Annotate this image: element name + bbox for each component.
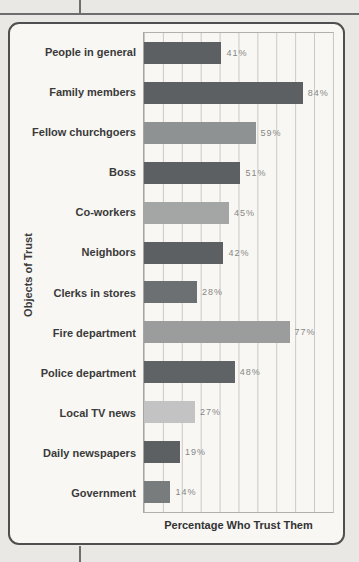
category-row: Local TV news (46, 393, 136, 433)
bar (144, 361, 235, 383)
bar-value-label: 77% (295, 327, 316, 337)
category-label: Co-workers (75, 206, 136, 218)
chart-row: 48% (144, 352, 333, 392)
page-rule-vertical-bottom (79, 546, 81, 562)
y-axis-label: Objects of Trust (22, 215, 34, 335)
category-row: Co-workers (46, 192, 136, 232)
category-label: Clerks in stores (53, 287, 136, 299)
category-row: People in general (46, 32, 136, 72)
bar-value-label: 51% (245, 168, 266, 178)
plot-area: 41%84%59%51%45%42%28%77%48%27%19%14% (143, 32, 334, 513)
bar-value-label: 41% (226, 48, 247, 58)
category-label: Local TV news (60, 407, 136, 419)
bar (144, 441, 180, 463)
chart-row: 59% (144, 113, 333, 153)
category-label: Boss (109, 166, 136, 178)
bar (144, 122, 256, 144)
page-rule-vertical-top (79, 0, 81, 13)
category-label: Government (71, 487, 136, 499)
category-label: Daily newspapers (43, 447, 136, 459)
category-label: Family members (49, 86, 136, 98)
bar (144, 202, 229, 224)
figure-box: Objects of Trust People in generalFamily… (8, 22, 345, 545)
bar (144, 42, 221, 64)
category-label: Fellow churchgoers (32, 126, 136, 138)
page-rule-top (0, 13, 359, 15)
category-labels-column: People in generalFamily membersFellow ch… (46, 32, 136, 513)
category-row: Government (46, 473, 136, 513)
bar (144, 401, 195, 423)
bar (144, 242, 223, 264)
category-row: Fire department (46, 313, 136, 353)
category-row: Boss (46, 152, 136, 192)
category-row: Clerks in stores (46, 272, 136, 312)
category-label: Police department (41, 367, 136, 379)
chart-row: 51% (144, 153, 333, 193)
category-row: Fellow churchgoers (46, 112, 136, 152)
bar-value-label: 14% (175, 487, 196, 497)
chart-row: 84% (144, 73, 333, 113)
category-label: Fire department (53, 327, 136, 339)
category-row: Neighbors (46, 232, 136, 272)
bar-value-label: 28% (202, 287, 223, 297)
category-label: People in general (45, 46, 136, 58)
chart-row: 77% (144, 312, 333, 352)
bar-value-label: 42% (228, 248, 249, 258)
category-row: Family members (46, 72, 136, 112)
bar-value-label: 84% (308, 88, 329, 98)
bar (144, 82, 303, 104)
bar (144, 162, 240, 184)
bar (144, 321, 290, 343)
category-row: Police department (46, 353, 136, 393)
bar (144, 281, 197, 303)
bar-value-label: 48% (240, 367, 261, 377)
x-axis-label: Percentage Who Trust Them (143, 519, 334, 531)
bar-value-label: 27% (200, 407, 221, 417)
chart-row: 42% (144, 233, 333, 273)
category-label: Neighbors (82, 246, 136, 258)
category-row: Daily newspapers (46, 433, 136, 473)
chart-row: 28% (144, 273, 333, 313)
chart-row: 14% (144, 472, 333, 512)
chart-row: 19% (144, 432, 333, 472)
chart-row: 45% (144, 193, 333, 233)
bar-value-label: 19% (185, 447, 206, 457)
bar-value-label: 45% (234, 208, 255, 218)
bar-value-label: 59% (261, 128, 282, 138)
bar (144, 481, 170, 503)
chart-row: 27% (144, 392, 333, 432)
chart-row: 41% (144, 33, 333, 73)
